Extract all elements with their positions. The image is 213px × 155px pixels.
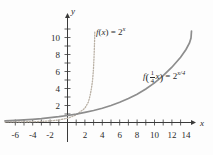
- curve-2-power-x: [5, 31, 95, 122]
- y-tick-label: 6: [56, 67, 61, 77]
- y-tick-label: 10: [51, 33, 61, 43]
- x-tick-label: -2: [46, 130, 54, 140]
- x-tick-label: 2: [83, 130, 88, 140]
- annotation-fq-exponent: x/4: [177, 69, 185, 76]
- annotation-fq-equals: = 2: [165, 71, 177, 81]
- figure-container: -6 -4 -2 2 4 6 8 10 12 14 2 4 6 8 10 x y…: [0, 0, 213, 155]
- annotation-fq-close: ): [159, 71, 163, 83]
- x-axis-label: x: [199, 118, 204, 128]
- x-tick-label: 12: [167, 130, 176, 140]
- x-tick-label: -4: [29, 130, 37, 140]
- annotation-fx-close: ): [106, 27, 109, 37]
- annotation-f-of-x: f(x) = 2x: [96, 26, 125, 37]
- annotation-fx-equals: = 2: [111, 27, 123, 37]
- y-tick-label: 4: [56, 84, 61, 94]
- annotation-fq-open: (: [146, 71, 150, 83]
- x-tick-label: 8: [135, 130, 140, 140]
- y-tick-label: 2: [56, 101, 61, 111]
- y-tick-label: 8: [56, 50, 61, 60]
- y-axis-label: y: [70, 6, 75, 16]
- annotation-f-of-quarter-x: f(14x) = 2x/4: [143, 70, 185, 85]
- x-tick-label: -6: [12, 130, 20, 140]
- x-tick-label: 10: [150, 130, 160, 140]
- x-tick-label: 6: [117, 130, 122, 140]
- x-tick-label: 4: [100, 130, 105, 140]
- annotation-fx-exponent: x: [123, 25, 126, 32]
- x-tick-label: 14: [182, 130, 192, 140]
